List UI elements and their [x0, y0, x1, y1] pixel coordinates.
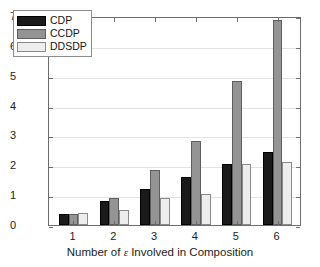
legend-swatch-ddsdp — [17, 42, 46, 52]
bar-ddsdp-1 — [78, 213, 88, 225]
bar-cdp-6 — [263, 152, 273, 225]
bar-cdp-1 — [59, 214, 69, 225]
x-tick-mark — [155, 221, 156, 225]
y-tick-label: 4 — [0, 101, 16, 112]
legend-swatch-cdp — [17, 16, 46, 26]
bar-ddsdp-6 — [282, 162, 292, 225]
legend-label-ddsdp: DDSDP — [50, 41, 87, 52]
legend-label-ccdp: CCDP — [50, 28, 80, 39]
x-axis-title: Number of ε Involved in Composition — [0, 246, 320, 258]
y-tick-mark — [296, 18, 300, 19]
bar-cdp-5 — [222, 164, 232, 225]
y-tick-mark — [296, 78, 300, 79]
y-tick-label: 2 — [0, 160, 16, 171]
x-tick-mark — [196, 221, 197, 225]
y-tick-mark — [49, 78, 53, 79]
x-tick-label: 1 — [60, 231, 84, 242]
legend-item-ccdp: CCDP — [17, 27, 87, 40]
y-tick-mark — [296, 227, 300, 228]
bar-cdp-2 — [100, 201, 110, 225]
x-tick-mark — [155, 18, 156, 22]
y-tick-label: 0 — [0, 220, 16, 231]
x-tick-mark — [114, 18, 115, 22]
x-tick-mark — [114, 221, 115, 225]
bar-ccdp-3 — [150, 170, 160, 225]
x-tick-mark — [237, 18, 238, 22]
x-tick-mark — [73, 221, 74, 225]
bar-cdp-3 — [140, 189, 150, 225]
bar-ddsdp-4 — [201, 194, 211, 225]
x-tick-mark — [196, 18, 197, 22]
bar-cdp-4 — [181, 177, 191, 225]
bar-ddsdp-5 — [242, 164, 252, 225]
y-tick-mark — [296, 108, 300, 109]
y-tick-mark — [49, 227, 53, 228]
y-tick-mark — [296, 167, 300, 168]
bar-ddsdp-2 — [119, 210, 129, 225]
y-tick-mark — [296, 137, 300, 138]
bar-ccdp-4 — [191, 141, 201, 225]
legend-item-ddsdp: DDSDP — [17, 40, 87, 53]
legend-item-cdp: CDP — [17, 14, 87, 27]
x-tick-label: 4 — [183, 231, 207, 242]
x-tick-label: 5 — [224, 231, 248, 242]
bar-ccdp-5 — [232, 81, 242, 226]
y-tick-mark — [49, 108, 53, 109]
y-tick-mark — [296, 197, 300, 198]
chart-legend: CDP CCDP DDSDP — [13, 10, 92, 57]
x-tick-label: 2 — [101, 231, 125, 242]
x-tick-mark — [237, 221, 238, 225]
y-tick-label: 1 — [0, 190, 16, 201]
x-tick-label: 3 — [142, 231, 166, 242]
x-tick-mark — [278, 221, 279, 225]
bar-ddsdp-3 — [160, 198, 170, 225]
chart-figure: 01234567 123456 Privacy Level(ε) Number … — [0, 0, 320, 267]
y-tick-label: 3 — [0, 130, 16, 141]
bar-ccdp-6 — [273, 20, 283, 225]
y-tick-mark — [49, 167, 53, 168]
legend-label-cdp: CDP — [50, 15, 72, 26]
y-tick-mark — [49, 137, 53, 138]
x-tick-mark — [278, 18, 279, 22]
y-tick-mark — [49, 197, 53, 198]
y-tick-label: 5 — [0, 71, 16, 82]
legend-swatch-ccdp — [17, 29, 46, 39]
y-tick-mark — [296, 48, 300, 49]
x-tick-label: 6 — [265, 231, 289, 242]
